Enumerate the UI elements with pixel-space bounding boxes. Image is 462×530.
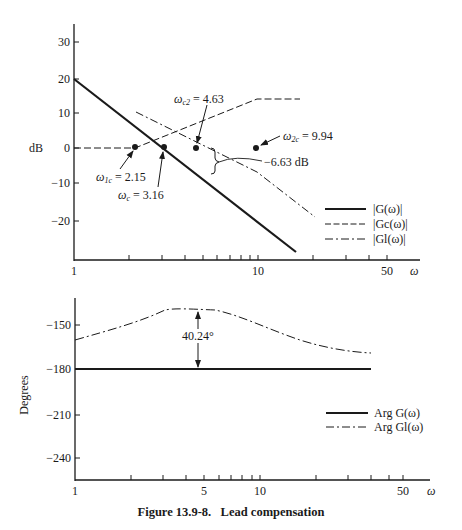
phase-plot: −150 −180 −210 −240 Degrees 1 5 10: [17, 298, 435, 498]
y-tick-label: 10: [58, 106, 70, 120]
phase-y-tick-labels: −150 −180 −210 −240: [46, 318, 71, 465]
y-tick-label: 0: [64, 141, 70, 155]
magnitude-y-axis-label: dB: [29, 141, 43, 155]
phase-x-ticks: [131, 475, 403, 480]
label-w2c: ω2c = 9.94: [283, 129, 333, 144]
figure-caption: Figure 13.9-8. Lead compensation: [0, 505, 462, 520]
y-tick-label: −240: [46, 451, 71, 465]
label-phase-margin: 40.24°: [182, 329, 214, 343]
label-wc: ωc = 3.16: [118, 188, 164, 203]
bode-plot: 30 20 10 0 −10 −20 dB 1 10 50: [0, 0, 462, 530]
series-Gl-phase: [75, 309, 371, 353]
arrow-w2c: [261, 136, 280, 145]
arrow-wc2: [197, 105, 207, 143]
magnitude-y-tick-labels: 30 20 10 0 −10 −20: [51, 35, 70, 228]
magnitude-plot: 30 20 10 0 −10 −20 dB 1 10 50: [29, 24, 420, 278]
phase-x-axis-label: ω: [427, 484, 435, 498]
x-tick-label: 10: [252, 264, 264, 278]
magnitude-x-axis-label: ω: [410, 264, 418, 278]
gap-brace: [211, 148, 219, 174]
phase-y-ticks: [75, 325, 80, 458]
x-tick-label: 50: [397, 484, 409, 498]
arrow-wc: [158, 152, 163, 187]
label-w1c: ω1c = 2.15: [96, 170, 146, 185]
legend-label: |Gc(ω)|: [373, 217, 408, 231]
magnitude-legend: |G(ω)| |Gc(ω)| |Gl(ω)|: [325, 202, 408, 246]
y-tick-label: −150: [46, 318, 71, 332]
x-tick-label: 5: [201, 484, 207, 498]
y-tick-label: 20: [58, 72, 70, 86]
x-tick-label: 50: [381, 264, 393, 278]
point-wc2: [193, 145, 199, 151]
legend-label: Arg G(ω): [374, 406, 420, 420]
legend-label: Arg Gl(ω): [374, 420, 423, 434]
legend-label: |Gl(ω)|: [373, 232, 406, 246]
y-tick-label: −210: [46, 408, 71, 422]
label-db-gap: −6.63 dB: [264, 155, 309, 169]
x-tick-label: 10: [254, 484, 266, 498]
point-wc: [161, 144, 167, 150]
point-w2c: [253, 145, 259, 151]
y-tick-label: −20: [51, 214, 70, 228]
point-w1c: [132, 144, 138, 150]
magnitude-y-ticks: [74, 42, 79, 221]
magnitude-x-tick-labels: 1 10 50 ω: [71, 264, 418, 278]
y-tick-label: −180: [46, 362, 71, 376]
y-tick-label: 30: [58, 35, 70, 49]
y-tick-label: −10: [51, 176, 70, 190]
x-tick-label: 1: [71, 264, 77, 278]
phase-x-tick-labels: 1 5 10 50 ω: [72, 484, 435, 498]
x-tick-label: 1: [72, 484, 78, 498]
label-wc2: ωc2 = 4.63: [174, 92, 224, 107]
legend-label: |G(ω)|: [373, 202, 402, 216]
phase-legend: Arg G(ω) Arg Gl(ω): [326, 406, 423, 434]
magnitude-x-ticks: [129, 255, 387, 260]
gap-leader-line: [219, 158, 262, 162]
arrow-w1c: [120, 151, 133, 169]
phase-y-axis-label: Degrees: [17, 375, 31, 415]
